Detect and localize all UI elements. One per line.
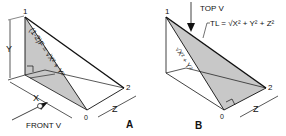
top-view-label: TOP V [200,4,224,13]
point-0-label: 0 [84,114,88,121]
dim-z-label-b: Z [253,104,259,114]
dim-z-label: Z [112,104,118,114]
true-length-formula: TL = √X² + Y² + Z² [210,19,275,28]
point-1-label: 1 [23,7,28,16]
top-view-arrow-icon [187,23,195,32]
dim-y-label: Y [6,44,12,54]
front-view-label: FRONT V [26,121,62,130]
descriptive-geometry-figure: Y X Z 1 2 0 (1-2)F = √X² + Y² FRONT V A [0,0,286,136]
point-0-label-b: 0 [220,113,224,120]
point-1-label-b: 1 [165,7,170,16]
panel-b-label: B [195,120,202,131]
dim-x-label: X [33,93,39,103]
point-2-label: 2 [126,83,131,92]
panel-a: Y X Z 1 2 0 (1-2)F = √X² + Y² FRONT V A [6,7,136,130]
point-2-label-b: 2 [268,83,273,92]
panel-b: Z 1 2 0 TOP V TL = √X² + Y² + Z² √X² + Y… [165,2,278,131]
panel-a-label: A [126,119,133,130]
